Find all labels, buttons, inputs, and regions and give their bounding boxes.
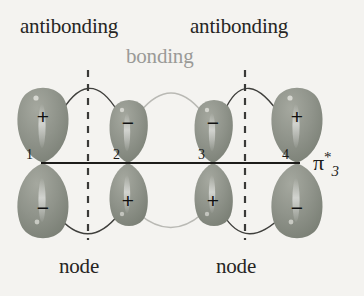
label-node-left: node (59, 256, 99, 277)
phase-sign-atom-1-top: + (33, 106, 53, 127)
phase-sign-atom-1-bottom: − (33, 197, 53, 218)
pi-subscript-3: 3 (332, 163, 340, 179)
arc-bonding-bottom-2-3 (139, 214, 202, 228)
label-antibonding-left: antibonding (20, 16, 118, 37)
atom-number-2: 2 (113, 148, 120, 162)
orbital-label-pi-star-3: π*3 (313, 150, 339, 179)
atom-number-4: 4 (282, 148, 289, 162)
label-node-right: node (216, 256, 256, 277)
atom-number-3: 3 (198, 148, 205, 162)
orbital-diagram-figure: antibonding antibonding bonding node nod… (0, 0, 364, 296)
phase-sign-atom-3-top: − (203, 112, 223, 133)
lobe-3-bottom-spec (205, 212, 209, 216)
pi-superscript-star: * (324, 149, 332, 165)
phase-sign-atom-4-top: + (287, 106, 307, 127)
lobe-1-bottom-spec (35, 220, 40, 225)
lobe-4-bottom-spec (289, 220, 294, 225)
atom-number-1: 1 (26, 148, 33, 162)
phase-sign-atom-4-bottom: − (287, 197, 307, 218)
lobe-1-top-spec (33, 95, 38, 100)
lobe-4-top-spec (287, 95, 292, 100)
phase-sign-atom-2-top: − (118, 112, 138, 133)
label-bonding: bonding (126, 46, 193, 67)
lobe-2-bottom-spec (120, 212, 124, 216)
label-antibonding-right: antibonding (190, 16, 288, 37)
phase-sign-atom-3-bottom: + (203, 190, 223, 211)
phase-sign-atom-2-bottom: + (118, 190, 138, 211)
pi-symbol: π (313, 150, 324, 175)
arc-bonding-top-2-3 (140, 93, 202, 112)
